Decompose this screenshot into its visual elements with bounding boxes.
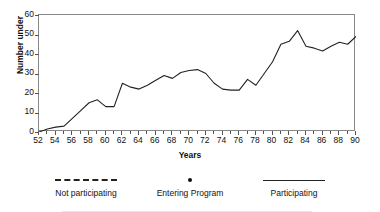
scan-edge-artifact [62,211,312,212]
x-tick-mark [197,131,198,134]
dashed-line-icon [55,174,117,186]
x-tick-mark [247,131,248,134]
x-tick-mark [347,131,348,134]
x-tick-mark [313,131,314,134]
y-tick-mark [35,74,39,75]
y-tick-label: 0 [12,127,34,136]
x-tick-mark [330,131,331,134]
legend-label-participating: Participating [271,188,318,198]
y-tick-label: 50 [12,29,34,38]
x-tick-mark [280,131,281,134]
x-tick-mark [46,131,47,134]
x-tick-mark [263,131,264,134]
chart-legend: Not participating Entering Program Parti… [0,174,380,204]
x-tick-mark [96,131,97,134]
y-tick-mark [35,113,39,114]
legend-item-participating: Participating [242,174,346,198]
x-tick-mark [113,131,114,134]
x-tick-mark [230,131,231,134]
legend-item-not-participating: Not participating [34,174,138,198]
y-tick-mark [35,54,39,55]
y-tick-label: 60 [12,10,34,19]
solid-line-icon [263,174,325,186]
x-tick-mark [297,131,298,134]
x-axis-title: Years [0,150,380,160]
data-line-participating [39,15,356,132]
y-tick-mark [35,93,39,94]
x-tick-mark [80,131,81,134]
x-tick-mark [130,131,131,134]
y-tick-label: 10 [12,107,34,116]
filled-dot-icon [188,174,192,186]
y-tick-label: 20 [12,88,34,97]
x-axis-ticks: 5254565860626466687072747678808284868890 [38,131,355,151]
x-tick-mark [63,131,64,134]
legend-label-not-participating: Not participating [55,188,116,198]
x-tick-mark [213,131,214,134]
x-tick-label: 90 [345,136,365,145]
plot-area [38,14,355,131]
y-tick-label: 30 [12,68,34,77]
x-tick-mark [163,131,164,134]
legend-label-entering-program: Entering Program [157,188,224,198]
y-tick-label: 40 [12,49,34,58]
x-tick-mark [146,131,147,134]
legend-item-entering-program: Entering Program [138,174,242,198]
x-tick-mark [180,131,181,134]
y-tick-mark [35,15,39,16]
chart-figure: Number under 0102030405060 5254565860626… [0,0,380,212]
y-tick-mark [35,35,39,36]
